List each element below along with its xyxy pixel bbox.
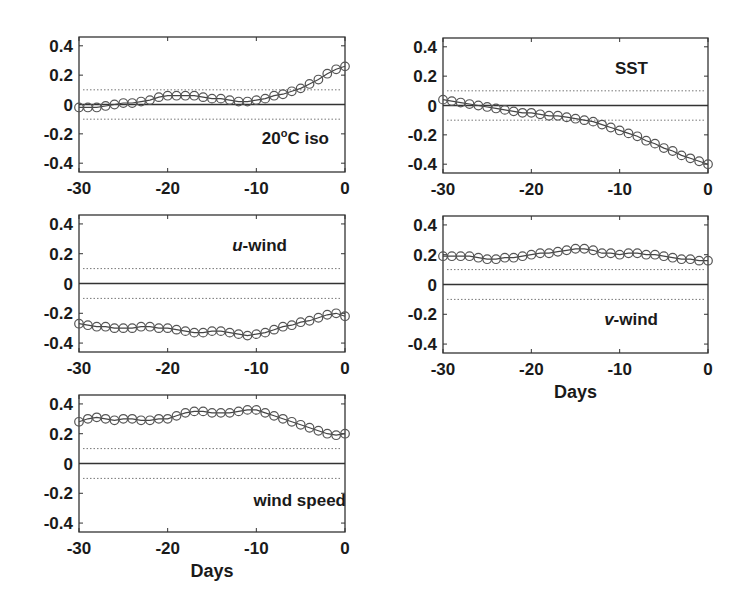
y-tick-label: 0.2 [49, 245, 73, 264]
x-tick-label: -30 [67, 359, 92, 378]
panel-label: u-wind [232, 236, 287, 255]
x-tick-label: 0 [703, 180, 712, 199]
panel-label: v-wind [604, 310, 658, 329]
y-tick-label: -0.2 [44, 304, 73, 323]
x-tick-label: -20 [155, 359, 180, 378]
panel-label: 20oC iso [262, 127, 329, 148]
y-tick-label: -0.2 [44, 125, 73, 144]
series-line [443, 100, 708, 165]
y-tick-label: -0.4 [44, 514, 74, 533]
x-tick-label: -30 [431, 360, 456, 379]
y-tick-label: 0 [428, 276, 437, 295]
y-tick-label: -0.4 [44, 154, 74, 173]
y-tick-label: 0 [64, 96, 73, 115]
x-tick-label: -20 [519, 180, 544, 199]
panel-label-rest: -wind [243, 236, 287, 255]
y-tick-label: 0.2 [413, 67, 437, 86]
x-axis-title: Days [554, 382, 597, 402]
panel-label: SST [615, 59, 649, 78]
series-line [79, 410, 345, 435]
y-tick-label: -0.4 [44, 334, 74, 353]
x-tick-label: -30 [431, 180, 456, 199]
x-tick-label: -10 [244, 179, 269, 198]
x-axis-title: Days [190, 561, 233, 581]
x-tick-label: -10 [244, 539, 269, 558]
panel-label-rest: -wind [614, 310, 658, 329]
x-tick-label: -30 [67, 179, 92, 198]
y-tick-label: 0.4 [413, 216, 437, 235]
y-tick-label: 0 [428, 97, 437, 116]
y-tick-label: 0 [64, 275, 73, 294]
x-tick-label: -20 [155, 539, 180, 558]
x-tick-label: -30 [67, 539, 92, 558]
y-tick-label: 0.4 [49, 395, 73, 414]
x-tick-label: -10 [607, 360, 632, 379]
figure: 0.40.20-0.2-0.4-30-20-10020oC iso0.40.20… [0, 0, 741, 609]
y-tick-label: -0.2 [44, 484, 73, 503]
y-tick-label: 0.4 [413, 38, 437, 57]
y-tick-label: -0.4 [408, 155, 438, 174]
y-tick-label: -0.2 [408, 305, 437, 324]
panel-label-main: wind speed [252, 491, 346, 510]
y-tick-label: 0.4 [49, 215, 73, 234]
x-tick-label: -10 [244, 359, 269, 378]
x-tick-label: -20 [519, 360, 544, 379]
panel-vwind: 0.40.20-0.2-0.4-30-20-100v-windDays [408, 216, 713, 402]
x-tick-label: -20 [155, 179, 180, 198]
y-tick-label: -0.2 [408, 126, 437, 145]
panel-label: wind speed [252, 491, 346, 510]
panel-iso20: 0.40.20-0.2-0.4-30-20-10020oC iso [44, 37, 350, 198]
panel-windspeed: 0.40.20-0.2-0.4-30-20-100wind speedDays [44, 395, 350, 581]
panel-label-main: u [232, 236, 243, 255]
y-tick-label: 0.4 [49, 37, 73, 56]
y-tick-label: 0 [64, 455, 73, 474]
x-tick-label: -10 [607, 180, 632, 199]
y-tick-label: 0.2 [413, 246, 437, 265]
y-tick-label: 0.2 [49, 425, 73, 444]
x-tick-label: 0 [340, 359, 349, 378]
panel-label-rest: C iso [287, 129, 329, 148]
panel-sst: 0.40.20-0.2-0.4-30-20-100SST [408, 38, 713, 199]
x-tick-label: 0 [703, 360, 712, 379]
panel-label-main: 20 [262, 129, 281, 148]
y-tick-label: 0.2 [49, 66, 73, 85]
y-tick-label: -0.4 [408, 335, 438, 354]
panel-label-main: SST [615, 59, 649, 78]
x-tick-label: 0 [340, 179, 349, 198]
series-line [79, 313, 345, 335]
x-tick-label: 0 [340, 539, 349, 558]
panel-uwind: 0.40.20-0.2-0.4-30-20-100u-wind [44, 215, 350, 378]
